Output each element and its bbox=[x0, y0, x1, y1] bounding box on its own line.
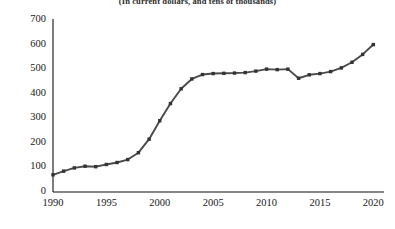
data-point-marker bbox=[211, 72, 214, 75]
data-point-marker bbox=[126, 158, 129, 161]
data-point-marker bbox=[372, 43, 375, 46]
y-axis-tick-label: 400 bbox=[4, 87, 46, 98]
data-point-markers bbox=[51, 43, 375, 177]
data-point-marker bbox=[73, 166, 76, 169]
x-axis-tick-label: 2005 bbox=[190, 197, 236, 208]
data-point-marker bbox=[105, 163, 108, 166]
data-point-marker bbox=[169, 102, 172, 105]
data-point-marker bbox=[243, 71, 246, 74]
data-line bbox=[53, 45, 373, 175]
y-axis-tick-label: 600 bbox=[4, 38, 46, 49]
data-point-marker bbox=[158, 119, 161, 122]
data-point-marker bbox=[201, 73, 204, 76]
data-point-marker bbox=[94, 165, 97, 168]
data-point-marker bbox=[222, 72, 225, 75]
line-chart-plot-area bbox=[0, 0, 395, 229]
data-point-marker bbox=[329, 70, 332, 73]
y-axis-tick-label: 100 bbox=[4, 160, 46, 171]
data-point-marker bbox=[308, 73, 311, 76]
data-point-marker bbox=[286, 67, 289, 70]
y-axis-tick-label: 0 bbox=[4, 185, 46, 196]
x-axis-tick-label: 2015 bbox=[297, 197, 343, 208]
data-point-marker bbox=[83, 165, 86, 168]
x-axis-tick-label: 1995 bbox=[83, 197, 129, 208]
x-axis-tick-label: 2000 bbox=[137, 197, 183, 208]
data-point-marker bbox=[147, 137, 150, 140]
data-point-marker bbox=[137, 151, 140, 154]
data-point-marker bbox=[350, 61, 353, 64]
y-axis-tick-label: 500 bbox=[4, 62, 46, 73]
y-axis-tick-label: 700 bbox=[4, 13, 46, 24]
data-point-marker bbox=[265, 67, 268, 70]
data-point-marker bbox=[340, 66, 343, 69]
data-point-marker bbox=[62, 169, 65, 172]
x-axis-tick-label: 2010 bbox=[244, 197, 290, 208]
data-point-marker bbox=[233, 71, 236, 74]
x-axis-tick-label: 2020 bbox=[350, 197, 395, 208]
data-point-marker bbox=[179, 87, 182, 90]
data-point-marker bbox=[51, 173, 54, 176]
data-point-marker bbox=[276, 68, 279, 71]
y-axis-tick-label: 300 bbox=[4, 111, 46, 122]
y-axis-tick-label: 200 bbox=[4, 136, 46, 147]
data-series-group bbox=[51, 43, 375, 177]
data-point-marker bbox=[297, 77, 300, 80]
data-point-marker bbox=[115, 161, 118, 164]
x-axis-tick-label: 1990 bbox=[30, 197, 76, 208]
data-point-marker bbox=[254, 69, 257, 72]
data-point-marker bbox=[318, 72, 321, 75]
chart-figure: (In current dollars, and tens of thousan… bbox=[0, 0, 395, 229]
data-point-marker bbox=[361, 53, 364, 56]
data-point-marker bbox=[190, 77, 193, 80]
